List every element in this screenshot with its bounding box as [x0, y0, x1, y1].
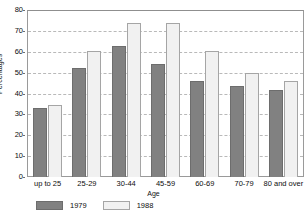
bar-1988-60-69 — [205, 51, 219, 177]
y-tick-mark — [23, 31, 25, 32]
bar-1988-45-59 — [166, 23, 180, 177]
bar-chart: 01020304050607080 Percentages up to 2525… — [0, 0, 307, 214]
legend-label: 1988 — [137, 201, 154, 210]
y-tick-label: 40 — [15, 90, 23, 98]
bar-1988-30-44 — [127, 23, 141, 177]
light-gray-swatch — [103, 201, 130, 210]
bar-group — [67, 11, 106, 177]
y-tick-mark — [23, 177, 25, 178]
x-axis-title: Age — [0, 190, 307, 197]
legend-label: 1979 — [70, 201, 87, 210]
legend: 19791988 — [36, 200, 169, 211]
y-tick-label: 60 — [15, 48, 23, 56]
x-tick-label: 70-79 — [234, 179, 253, 188]
bar-1979-30-44 — [112, 46, 126, 178]
y-tick-mark — [23, 73, 25, 74]
legend-item-1988[interactable]: 1988 — [103, 201, 154, 210]
bar-1979-80-and-over — [269, 90, 283, 177]
y-tick-label: 30 — [15, 110, 23, 118]
bar-1979-25-29 — [72, 68, 86, 177]
y-tick-mark — [23, 52, 25, 53]
bar-1979-up-to-25 — [33, 108, 47, 177]
y-tick-mark — [23, 114, 25, 115]
y-axis-title: Percentages — [0, 54, 3, 94]
y-tick-label: 20 — [15, 131, 23, 139]
x-tick-label: 45-59 — [156, 179, 175, 188]
bar-group — [28, 11, 67, 177]
bar-group — [264, 11, 303, 177]
bar-group — [224, 11, 263, 177]
bar-group — [185, 11, 224, 177]
bar-1988-25-29 — [87, 51, 101, 177]
bar-1988-up-to-25 — [48, 105, 62, 177]
bar-1979-60-69 — [190, 81, 204, 177]
y-tick-label: 80 — [15, 6, 23, 14]
y-axis: 01020304050607080 — [0, 10, 25, 177]
bar-group — [146, 11, 185, 177]
x-tick-label: 80 and over — [264, 179, 304, 188]
y-tick-mark — [23, 156, 25, 157]
bar-1979-45-59 — [151, 64, 165, 177]
bar-group — [107, 11, 146, 177]
bars-layer — [28, 11, 303, 177]
y-tick-mark — [23, 10, 25, 11]
y-tick-mark — [23, 135, 25, 136]
y-tick-label: 50 — [15, 69, 23, 77]
bar-1979-70-79 — [230, 86, 244, 177]
bar-1988-70-79 — [245, 73, 259, 177]
x-tick-label: 30-44 — [117, 179, 136, 188]
y-tick-mark — [23, 94, 25, 95]
legend-item-1979[interactable]: 1979 — [36, 201, 87, 210]
y-tick-label: 10 — [15, 152, 23, 160]
x-tick-label: 25-29 — [77, 179, 96, 188]
x-tick-label: up to 25 — [34, 179, 61, 188]
y-tick-label: 70 — [15, 27, 23, 35]
bar-1988-80-and-over — [284, 81, 298, 177]
x-tick-label: 60-69 — [195, 179, 214, 188]
dark-gray-swatch — [36, 201, 63, 210]
